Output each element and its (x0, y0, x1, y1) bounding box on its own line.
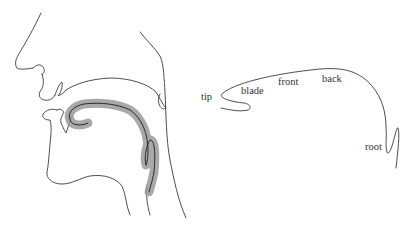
label-tip: tip (201, 91, 212, 102)
upper-incisor (55, 82, 66, 96)
label-back: back (322, 73, 343, 84)
face-profile-upper (16, 13, 55, 100)
label-blade: blade (241, 85, 264, 96)
diagram-canvas: tip blade front back root (0, 0, 414, 226)
label-front: front (278, 76, 298, 87)
tongue-region-curve (221, 69, 399, 168)
label-root: root (365, 141, 382, 152)
tongue-regions: tip blade front back root (201, 69, 399, 168)
vocal-tract-section (16, 13, 186, 218)
